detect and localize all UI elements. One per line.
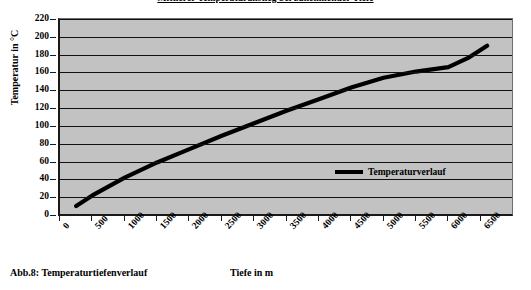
x-tick-mark: [124, 216, 125, 221]
gridline: [60, 37, 512, 38]
y-tick-label: 60: [40, 157, 50, 167]
gridline: [60, 144, 512, 145]
y-tick-mark: [50, 215, 56, 216]
x-tick-mark: [221, 216, 222, 221]
x-tick-mark: [415, 216, 416, 221]
y-tick-mark: [50, 162, 56, 163]
y-tick-label: 120: [35, 103, 49, 113]
gridline: [60, 90, 512, 91]
figure-caption: Abb.8: Temperaturtiefenverlauf: [10, 267, 147, 278]
x-tick-mark: [318, 216, 319, 221]
x-tick-mark: [286, 216, 287, 221]
y-axis-title: Temperatur in °C: [9, 8, 20, 128]
y-tick-mark: [50, 126, 56, 127]
y-tick-label: 220: [35, 14, 49, 24]
y-tick-mark: [50, 179, 56, 180]
gridline: [60, 108, 512, 109]
y-tick-mark: [50, 90, 56, 91]
x-tick-mark: [480, 216, 481, 221]
gridline: [60, 162, 512, 163]
x-tick-label: 0: [61, 221, 72, 231]
y-tick-label: 160: [35, 68, 49, 78]
gridline: [60, 55, 512, 56]
gridline: [60, 179, 512, 180]
x-tick-mark: [91, 216, 92, 221]
y-tick-mark: [50, 108, 56, 109]
y-tick-mark: [50, 72, 56, 73]
y-tick-mark: [50, 55, 56, 56]
y-tick-mark: [50, 144, 56, 145]
y-tick-mark: [50, 37, 56, 38]
gridline: [60, 19, 512, 20]
x-tick-mark: [350, 216, 351, 221]
legend-label: Temperaturverlauf: [368, 167, 446, 177]
x-tick-mark: [383, 216, 384, 221]
figure-container: Mittlerer Temperaturanstieg bei zunehmen…: [0, 0, 531, 290]
y-tick-label: 20: [40, 192, 50, 202]
x-tick-mark: [447, 216, 448, 221]
x-tick-mark: [59, 216, 60, 221]
y-tick-label: 180: [35, 50, 49, 60]
y-tick-label: 140: [35, 86, 49, 96]
x-tick-mark: [156, 216, 157, 221]
legend: Temperaturverlauf: [333, 166, 448, 178]
y-tick-label: 200: [35, 32, 49, 42]
x-tick-label: 500: [93, 214, 110, 231]
y-tick-mark: [50, 19, 56, 20]
y-tick-label: 100: [35, 121, 49, 131]
y-tick-label: 0: [44, 210, 49, 220]
plot-area: [58, 18, 513, 216]
x-tick-mark: [188, 216, 189, 221]
gridline: [60, 72, 512, 73]
legend-line-marker: [335, 170, 363, 174]
data-series-temperaturverlauf: [60, 19, 513, 215]
y-tick-mark: [50, 197, 56, 198]
chart-title: Mittlerer Temperaturanstieg bei zunehmen…: [0, 0, 531, 3]
gridline: [60, 126, 512, 127]
y-tick-label: 40: [40, 175, 50, 185]
gridline: [60, 197, 512, 198]
x-tick-mark: [253, 216, 254, 221]
x-axis-title: Tiefe in m: [230, 267, 273, 278]
y-tick-label: 80: [40, 139, 50, 149]
